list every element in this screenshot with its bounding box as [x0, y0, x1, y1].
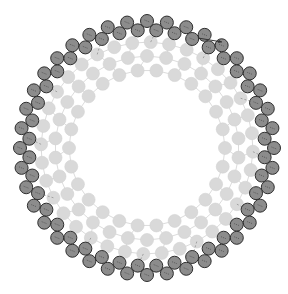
- light-bead: [178, 226, 191, 239]
- light-bead: [219, 142, 232, 155]
- light-bead: [49, 151, 62, 164]
- light-bead: [173, 242, 186, 255]
- light-bead: [108, 41, 121, 54]
- light-bead: [150, 64, 163, 77]
- light-bead: [82, 193, 95, 206]
- light-bead: [131, 64, 144, 77]
- light-bead: [155, 246, 168, 259]
- light-bead: [113, 214, 126, 227]
- light-bead: [40, 174, 53, 187]
- light-bead: [53, 170, 66, 183]
- light-bead: [195, 67, 208, 80]
- light-bead: [121, 52, 134, 65]
- light-bead: [49, 132, 62, 145]
- light-bead: [185, 206, 198, 219]
- light-bead: [185, 77, 198, 90]
- light-bead: [160, 52, 173, 65]
- light-bead: [82, 90, 95, 103]
- light-bead: [232, 132, 245, 145]
- light-bead-layer: [35, 36, 260, 261]
- molecular-ring-diagram: [0, 0, 288, 294]
- light-bead: [228, 113, 241, 126]
- light-bead: [61, 188, 74, 201]
- light-bead: [71, 105, 84, 118]
- light-bead: [209, 80, 222, 93]
- light-bead: [210, 178, 223, 191]
- light-bead: [75, 58, 88, 71]
- light-bead: [168, 69, 181, 82]
- light-bead: [65, 123, 78, 136]
- light-bead: [241, 109, 254, 122]
- light-bead: [245, 127, 258, 140]
- light-bead: [216, 123, 229, 136]
- light-bead: [57, 207, 70, 220]
- light-bead: [131, 219, 144, 232]
- light-bead: [210, 105, 223, 118]
- light-bead: [61, 96, 74, 109]
- light-bead: [86, 216, 99, 229]
- light-bead: [199, 90, 212, 103]
- diagram-canvas: [0, 0, 288, 294]
- light-bead: [178, 57, 191, 70]
- light-bead: [228, 170, 241, 183]
- light-bead: [103, 57, 116, 70]
- light-bead: [63, 142, 76, 155]
- light-bead: [65, 160, 78, 173]
- light-bead: [224, 76, 237, 89]
- light-bead: [121, 231, 134, 244]
- light-bead: [160, 231, 173, 244]
- light-bead: [141, 50, 154, 63]
- light-bead: [216, 160, 229, 173]
- light-bead: [209, 203, 222, 216]
- light-bead: [232, 151, 245, 164]
- light-bead: [53, 113, 66, 126]
- light-bead: [72, 203, 85, 216]
- light-bead: [206, 225, 219, 238]
- light-bead: [199, 193, 212, 206]
- light-bead: [220, 96, 233, 109]
- light-bead: [71, 178, 84, 191]
- light-bead: [126, 37, 139, 50]
- light-bead: [96, 206, 109, 219]
- light-bead: [72, 80, 85, 93]
- light-bead: [150, 219, 163, 232]
- light-bead: [195, 216, 208, 229]
- light-bead: [220, 188, 233, 201]
- light-bead: [86, 67, 99, 80]
- light-bead: [168, 214, 181, 227]
- light-bead: [96, 77, 109, 90]
- light-bead: [141, 234, 154, 247]
- light-bead: [103, 226, 116, 239]
- light-bead: [113, 69, 126, 82]
- light-bead: [36, 156, 49, 169]
